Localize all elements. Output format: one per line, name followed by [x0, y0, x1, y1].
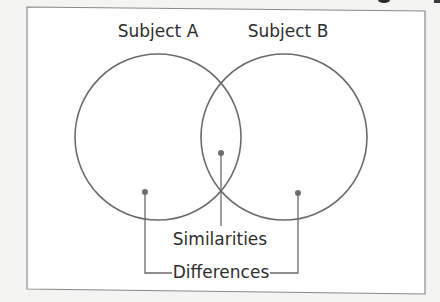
similarities-label: Similarities	[173, 229, 267, 249]
differences-label: Differences	[173, 262, 270, 282]
cropped-text-fragment	[434, 0, 440, 3]
venn-diagram: Subject A Subject B Similarities Differe…	[0, 0, 440, 302]
subject-a-label: Subject A	[118, 21, 199, 41]
cropped-text-fragment	[378, 0, 390, 3]
subject-b-label: Subject B	[248, 21, 329, 41]
